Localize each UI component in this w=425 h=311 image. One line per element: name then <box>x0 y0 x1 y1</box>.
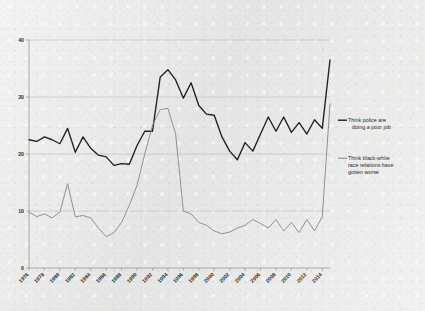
x-axis-tick-labels: 1976197819801982198419861988199019921994… <box>17 271 323 283</box>
x-tick-label-1996: 1996 <box>172 271 184 283</box>
x-tick-label-2006: 2006 <box>249 271 261 283</box>
x-tick-label-1978: 1978 <box>33 271 45 283</box>
line-chart-figure: 010203040 197619781980198219841986198819… <box>0 0 425 311</box>
x-tick-label-1992: 1992 <box>141 271 153 283</box>
x-tick-label-1994: 1994 <box>156 271 168 283</box>
x-tick-label-1980: 1980 <box>48 271 60 283</box>
x-tick-label-2008: 2008 <box>264 271 276 283</box>
x-tick-label-1976: 1976 <box>17 271 29 283</box>
x-tick-label-1988: 1988 <box>110 271 122 283</box>
x-tick-label-1986: 1986 <box>94 271 106 283</box>
x-tick-label-2010: 2010 <box>280 271 292 283</box>
legend-race-label-line2: race relations have <box>348 162 394 168</box>
data-series-group <box>29 60 330 237</box>
legend-police-label-line2: doing a poor job <box>352 124 391 130</box>
y-tick-label-10: 10 <box>18 208 24 214</box>
y-tick-label-0: 0 <box>21 265 24 271</box>
x-tick-label-1984: 1984 <box>79 271 91 283</box>
x-tick-label-2002: 2002 <box>218 271 230 283</box>
x-tick-label-2014: 2014 <box>311 271 323 283</box>
chart-canvas: 010203040 197619781980198219841986198819… <box>0 0 425 311</box>
x-tick-label-2000: 2000 <box>203 271 215 283</box>
x-tick-label-1998: 1998 <box>187 271 199 283</box>
legend-police-label-line1: Think police are <box>348 117 386 123</box>
y-tick-label-20: 20 <box>18 151 24 157</box>
legend-race-label-line1: Think black-white <box>348 155 390 161</box>
x-tick-label-1990: 1990 <box>125 271 137 283</box>
gridlines-group <box>29 40 330 211</box>
series-line-race <box>29 104 330 237</box>
y-tick-label-30: 30 <box>18 94 24 100</box>
x-tick-label-2012: 2012 <box>295 271 307 283</box>
chart-legend: Think police aredoing a poor jobThink bl… <box>338 117 394 175</box>
x-tick-label-2004: 2004 <box>233 271 245 283</box>
y-axis-tick-labels: 010203040 <box>18 37 24 271</box>
y-tick-label-40: 40 <box>18 37 24 43</box>
legend-race-label-line3: gotten worse <box>348 169 379 175</box>
x-tick-label-1982: 1982 <box>64 271 76 283</box>
series-line-police <box>29 60 330 165</box>
